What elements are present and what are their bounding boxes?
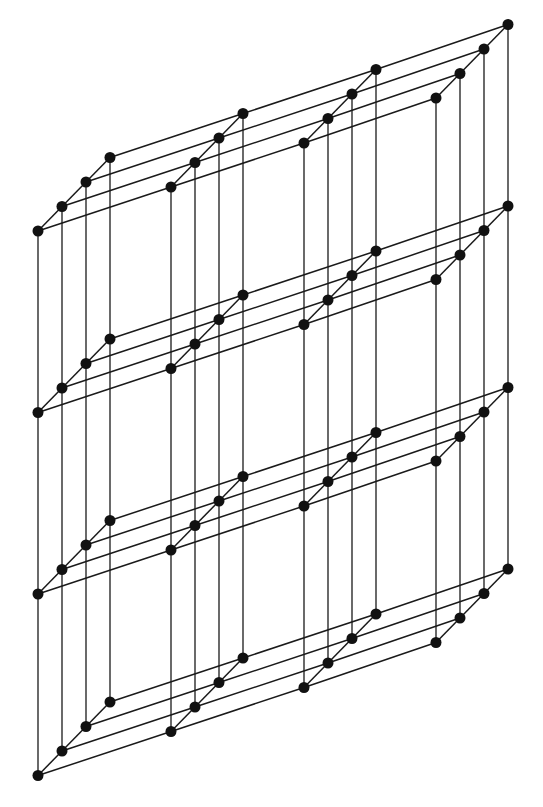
lattice-node (214, 496, 225, 507)
lattice-nodes (33, 19, 514, 781)
lattice-node (33, 226, 44, 237)
lattice-node (238, 290, 249, 301)
lattice-node (166, 545, 177, 556)
lattice-node (503, 201, 514, 212)
lattice-node (371, 609, 382, 620)
lattice-node (479, 588, 490, 599)
lattice-node (371, 64, 382, 75)
lattice-node (347, 89, 358, 100)
lattice-node (323, 295, 334, 306)
lattice-node (323, 476, 334, 487)
lattice-node (214, 133, 225, 144)
lattice-node (431, 274, 442, 285)
lattice-node (81, 177, 92, 188)
lattice-node (166, 726, 177, 737)
lattice-node (81, 358, 92, 369)
lattice-node (503, 19, 514, 30)
lattice-node (57, 201, 68, 212)
lattice-node (323, 113, 334, 124)
lattice-node (347, 633, 358, 644)
lattice-node (431, 93, 442, 104)
lattice-node (105, 334, 116, 345)
lattice-node (105, 152, 116, 163)
lattice-node (105, 697, 116, 708)
lattice-node (57, 383, 68, 394)
lattice-node (166, 182, 177, 193)
lattice-node (190, 157, 201, 168)
lattice-node (479, 44, 490, 55)
lattice-node (190, 702, 201, 713)
lattice-node (190, 339, 201, 350)
lattice-node (431, 637, 442, 648)
lattice-node (455, 250, 466, 261)
lattice-node (479, 225, 490, 236)
lattice-node (190, 520, 201, 531)
lattice-node (431, 456, 442, 467)
lattice-node (214, 314, 225, 325)
lattice-node (238, 653, 249, 664)
lattice-diagram (0, 0, 543, 807)
lattice-node (299, 138, 310, 149)
lattice-node (347, 452, 358, 463)
lattice-node (323, 658, 334, 669)
lattice-node (503, 382, 514, 393)
lattice-edges (38, 25, 508, 776)
lattice-node (455, 431, 466, 442)
lattice-node (57, 746, 68, 757)
lattice-node (479, 407, 490, 418)
lattice-node (81, 721, 92, 732)
lattice-node (371, 427, 382, 438)
lattice-node (299, 501, 310, 512)
lattice-node (33, 770, 44, 781)
lattice-node (347, 270, 358, 281)
lattice-node (299, 319, 310, 330)
lattice-node (33, 589, 44, 600)
lattice-node (238, 471, 249, 482)
lattice-node (371, 246, 382, 257)
lattice-node (105, 515, 116, 526)
lattice-node (238, 108, 249, 119)
lattice-node (33, 407, 44, 418)
lattice-node (299, 682, 310, 693)
lattice-node (214, 677, 225, 688)
lattice-node (503, 564, 514, 575)
lattice-node (81, 540, 92, 551)
lattice-node (455, 613, 466, 624)
lattice-node (57, 564, 68, 575)
lattice-node (455, 68, 466, 79)
lattice-node (166, 363, 177, 374)
